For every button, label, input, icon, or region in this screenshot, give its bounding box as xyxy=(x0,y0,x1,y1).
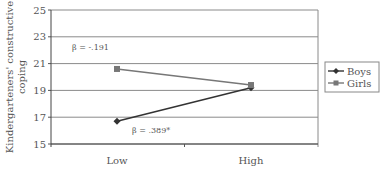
legend-label-girls: Girls xyxy=(347,78,371,89)
series-line-boys xyxy=(117,88,251,122)
y-tick-label: 21 xyxy=(33,58,46,69)
legend-label-boys: Boys xyxy=(347,66,371,77)
y-axis-label: Kindergarteners' constructivecoping xyxy=(4,1,27,153)
legend-marker-square xyxy=(334,81,339,86)
marker-diamond xyxy=(114,118,121,125)
x-tick-label: Low xyxy=(106,155,128,166)
y-tick-label: 23 xyxy=(33,31,46,42)
annotation-boys-beta: β = .389* xyxy=(132,126,170,135)
marker-square xyxy=(114,66,120,72)
y-tick-label: 25 xyxy=(33,5,46,16)
annotation-girls-beta: β = -.191 xyxy=(72,43,109,52)
marker-square xyxy=(248,82,254,88)
y-tick-label: 17 xyxy=(33,112,46,123)
x-tick-label: High xyxy=(239,155,264,166)
y-tick-label: 19 xyxy=(33,85,46,96)
chart: 151719212325LowHighKindergarteners' cons… xyxy=(0,0,381,172)
y-tick-label: 15 xyxy=(33,139,46,150)
series-line-girls xyxy=(117,69,251,85)
